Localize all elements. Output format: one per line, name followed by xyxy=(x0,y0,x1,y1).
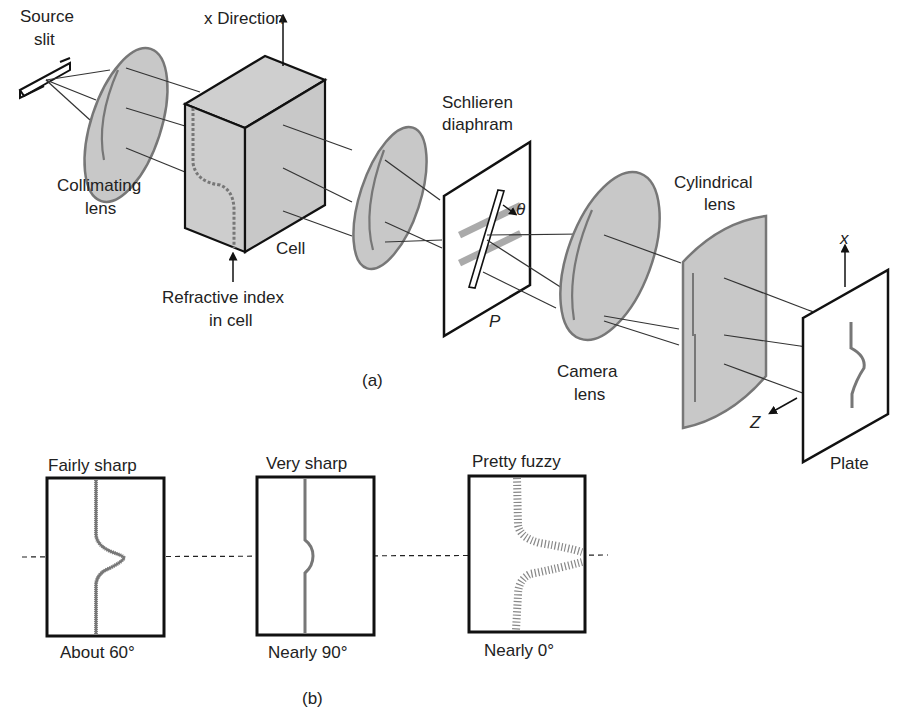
label-collimating-2: lens xyxy=(85,199,116,218)
label-cylindrical-1: Cylindrical xyxy=(674,173,752,192)
label-refractive-1: Refractive index xyxy=(162,288,284,307)
cylindrical-lens xyxy=(683,216,766,428)
label-axis-z: Z xyxy=(749,413,761,432)
label-source-slit-1: Source xyxy=(20,7,74,26)
panel-fairly-sharp xyxy=(47,478,164,636)
panel-3-title: Pretty fuzzy xyxy=(472,452,561,471)
panel-1-angle: About 60° xyxy=(60,643,135,662)
panel-very-sharp xyxy=(257,477,374,635)
label-source-slit-2: slit xyxy=(34,30,55,49)
label-plate: Plate xyxy=(830,454,869,473)
label-theta: θ xyxy=(516,200,526,219)
focusing-lens xyxy=(339,118,442,277)
panel-pretty-fuzzy xyxy=(469,476,585,632)
caption-a: (a) xyxy=(362,371,383,390)
label-cylindrical-2: lens xyxy=(704,195,735,214)
cell xyxy=(185,56,325,252)
label-cell: Cell xyxy=(276,239,305,258)
label-p: P xyxy=(489,312,501,331)
camera-lens xyxy=(540,159,679,353)
label-camera-1: Camera xyxy=(557,362,618,381)
label-collimating-1: Collimating xyxy=(57,176,141,195)
label-schlieren-1: Schlieren xyxy=(442,93,513,112)
label-axis-x: x xyxy=(839,229,849,248)
label-camera-2: lens xyxy=(574,385,605,404)
caption-b: (b) xyxy=(302,689,323,708)
schlieren-optics-diagram: Source slit x Direction Collimating lens… xyxy=(0,0,906,724)
panel-3-angle: Nearly 0° xyxy=(484,641,554,660)
panel-2-angle: Nearly 90° xyxy=(268,643,348,662)
z-axis-arrow xyxy=(772,398,797,412)
schlieren-diaphragm xyxy=(444,142,530,336)
label-refractive-2: in cell xyxy=(209,311,252,330)
panel-2-title: Very sharp xyxy=(266,454,347,473)
panel-1-title: Fairly sharp xyxy=(48,456,137,475)
label-x-direction: x Direction xyxy=(204,9,284,28)
label-schlieren-2: diaphram xyxy=(442,115,513,134)
plate xyxy=(803,270,888,462)
